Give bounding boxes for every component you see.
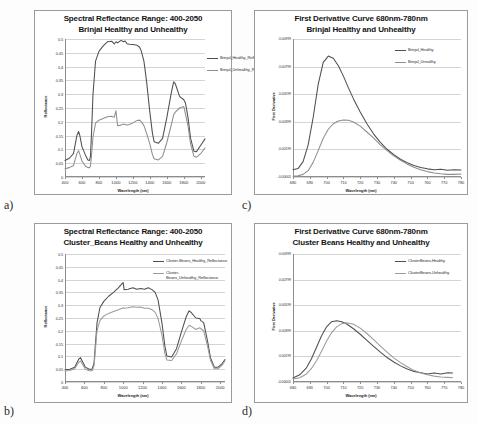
x-axis-tick-label: 1000 [111,180,120,185]
legend-swatch [153,261,164,262]
x-axis-tick-label: 800 [100,385,107,390]
x-axis-tick [461,177,462,179]
panel-b-label: b) [4,404,14,419]
x-axis-tick-label: 700 [323,180,330,185]
x-axis-tick [65,177,66,179]
x-axis-tick-label: 750 [407,180,414,185]
legend-item[interactable]: Cluster- Beans_Unhealthy_Reflectance [153,270,231,280]
x-axis-tick-label: 1800 [179,180,188,185]
chart-d-title-line2: Cluster Beans Healthy and Unhealthy [255,238,467,249]
y-axis-tick-label: 0.15 [35,133,63,138]
x-axis-tick [201,382,202,384]
x-axis-tick-label: 730 [374,180,381,185]
x-axis-title: Wavelength (nm) [255,188,467,193]
y-axis-tick-label: 0.00999 [255,252,291,256]
x-axis-tick [162,382,163,384]
x-axis-tick-label: 1000 [119,385,128,390]
x-axis-tick-label: 700 [323,385,330,390]
legend-swatch [153,273,164,274]
series-line [293,56,461,170]
legend-swatch [207,70,218,71]
x-axis-tick-label: 770 [441,385,448,390]
y-axis-title: Reflectance [43,291,48,343]
series-line [293,120,461,176]
x-axis-tick [343,177,344,179]
y-axis-tick-label: 0.3 [35,92,63,97]
x-axis-tick [444,177,445,179]
x-axis-tick [99,177,100,179]
x-axis-tick [143,382,144,384]
y-axis-tick-label: 0.05 [35,161,63,166]
legend-swatch [395,50,406,51]
x-axis-tick-label: 1400 [158,385,167,390]
x-axis-tick [310,382,311,384]
x-axis-tick [84,382,85,384]
y-axis-tick-label: 0.25 [35,316,63,321]
chart-d-legend: ClusterBeans-HealthyClusterBeans-Unhealt… [395,258,467,282]
y-axis-title: First Derivative [271,81,276,133]
panel-c-label: c) [242,198,251,213]
chart-b-title-line1: Spectral Reflectance Range: 400-2050 [64,227,203,236]
legend-item[interactable]: ClusterBeans-Healthy [395,258,467,263]
series-line [65,107,205,169]
panel-d-frame: First Derivative Curve 680nm-780nm Clust… [254,223,468,403]
legend-item[interactable]: Brinjal_Healthy [395,47,465,52]
x-axis-tick [327,177,328,179]
y-axis-tick-label: -0.00001 [255,175,291,179]
legend-item[interactable]: Brinjal_Unealthy [395,59,465,64]
legend-swatch [395,261,406,262]
legend-swatch [207,58,218,59]
y-axis-tick-label: 0.00999 [255,37,291,41]
y-axis-tick-label: 0.45 [35,50,63,55]
chart-a-title: Spectral Reflectance Range: 400-2050 Bri… [35,14,231,35]
legend-item[interactable]: ClusterBeans-Unhealthy [395,270,467,275]
x-axis-tick [411,177,412,179]
x-axis-tick-label: 600 [81,385,88,390]
panel-d-label: d) [242,404,252,419]
x-axis-tick [184,177,185,179]
x-axis-tick-label: 1400 [145,180,154,185]
chart-d-title-line1: First Derivative Curve 680nm-780nm [294,227,427,236]
series-line [65,307,225,371]
y-axis-tick-label: 0 [35,380,63,385]
x-axis-tick [377,177,378,179]
panel-b-frame: Spectral Reflectance Range: 400-2050 Clu… [34,223,232,403]
y-axis-tick-label: 0.00199 [255,147,291,151]
x-axis-tick-label: 760 [424,385,431,390]
chart-c-legend: Brinjal_HealthyBrinjal_Unealthy [395,47,465,71]
chart-d-title: First Derivative Curve 680nm-780nm Clust… [255,227,467,248]
legend-label: Brinjal_Healthy [408,47,433,52]
x-axis-tick [377,382,378,384]
x-axis-tick [293,177,294,179]
y-axis-tick-label: 0.3 [35,303,63,308]
x-axis-tick-label: 740 [391,180,398,185]
panel-c-frame: First Derivative Curve 680nm-780nm Brinj… [254,10,468,195]
x-axis-tick [427,382,428,384]
y-axis-tick-label: 0.5 [35,252,63,257]
y-axis-tick-label: 0.5 [35,37,63,42]
chart-b: Spectral Reflectance Range: 400-2050 Clu… [35,224,231,402]
chart-b-legend: Cluster-Beans_Healthy_ReflectanceCluster… [153,258,231,288]
figure-sheet: Spectral Reflectance Range: 400-2050 Bri… [0,0,478,425]
y-axis-tick-label: 0.1 [35,354,63,359]
y-axis-tick-label: -0.00001 [255,380,291,384]
x-axis-tick-label: 2000 [216,385,225,390]
x-axis-tick [82,177,83,179]
chart-a-title-line2: Brinjal Healthy and Unhealthy [35,25,231,36]
y-axis-tick-label: 0.25 [35,106,63,111]
x-axis-tick [394,177,395,179]
legend-item[interactable]: Cluster-Beans_Healthy_Reflectance [153,258,231,263]
series-line [65,283,225,370]
x-axis-tick-label: 400 [62,180,69,185]
x-axis-tick-label: 780 [458,180,465,185]
x-axis-title: Wavelength (nm) [35,393,231,398]
chart-b-title: Spectral Reflectance Range: 400-2050 Clu… [35,227,231,248]
x-axis-tick [310,177,311,179]
x-axis-tick-label: 690 [307,180,314,185]
y-axis-tick-label: 0.00199 [255,354,291,358]
y-axis-title: First Derivative [271,291,276,343]
chart-b-title-line2: Cluster_Beans Healthy and Unhealthy [35,238,231,249]
chart-a-title-line1: Spectral Reflectance Range: 400-2050 [64,14,203,23]
x-axis-tick [360,177,361,179]
x-axis-tick [461,382,462,384]
